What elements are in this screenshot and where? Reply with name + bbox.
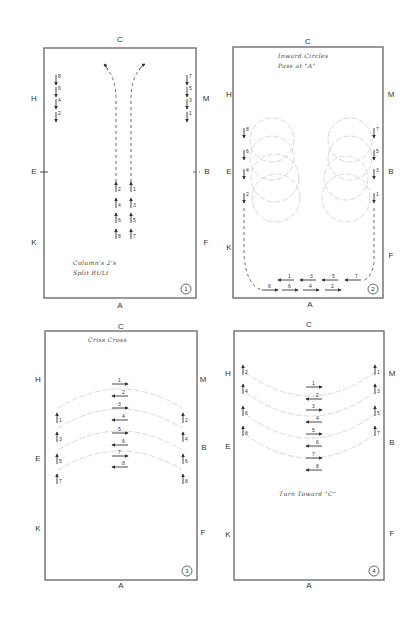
pattern-note: Inward Circles	[277, 52, 328, 59]
arena-letter-c: C	[117, 35, 123, 44]
rider-6: 6	[282, 283, 298, 290]
rider-number: 7	[376, 126, 379, 132]
rider-3: 3	[112, 401, 128, 408]
rider-number: 4	[245, 388, 248, 394]
rider-4: 4	[244, 167, 249, 179]
curve-path	[245, 392, 375, 416]
rider-7: 7	[112, 449, 128, 456]
arena-outline	[45, 331, 197, 580]
rider-8: 8	[243, 426, 248, 436]
rider-number: 8	[118, 233, 121, 239]
circle-path	[328, 118, 372, 162]
rider-1: 1	[375, 365, 380, 375]
rider-number: 2	[58, 110, 61, 116]
pattern-note: Column's 2's	[73, 259, 117, 266]
rider-number: 8	[268, 283, 271, 289]
rider-number: 4	[309, 283, 312, 289]
rider-4: 4	[303, 283, 319, 290]
rider-5: 5	[187, 85, 192, 97]
rider-number: 5	[189, 85, 192, 91]
rider-number: 8	[245, 430, 248, 436]
rider-8: 8	[116, 229, 121, 239]
rider-5: 5	[374, 148, 379, 160]
split-right-arrow-icon	[139, 64, 145, 70]
rider-number: 8	[185, 478, 188, 484]
rider-number: 6	[245, 410, 248, 416]
arena-outline	[234, 331, 384, 580]
track-right	[131, 70, 139, 182]
rider-5: 5	[375, 406, 380, 416]
rider-number: 6	[58, 85, 61, 91]
rider-1: 1	[306, 380, 322, 387]
arena-letter-e: E	[35, 454, 40, 463]
panel-4: CHMEBKFATurn Toward "C"24681357123456784	[225, 320, 396, 590]
rider-number: 3	[133, 202, 136, 208]
arena-letter-e: E	[31, 167, 36, 176]
rider-number: 2	[185, 417, 188, 423]
circle-path	[322, 174, 370, 222]
rider-2: 2	[183, 413, 188, 423]
arena-letter-m: M	[389, 369, 396, 378]
rider-3: 3	[57, 432, 62, 442]
arena-letter-h: H	[35, 375, 41, 384]
rider-3: 3	[131, 198, 136, 208]
rider-number: 3	[376, 167, 379, 173]
rider-number: 3	[189, 97, 192, 103]
arena-letter-k: K	[226, 243, 232, 252]
rider-number: 5	[59, 458, 62, 464]
rider-number: 6	[118, 217, 121, 223]
rider-number: 7	[312, 451, 315, 457]
arena-letter-b: B	[389, 438, 394, 447]
rider-number: 3	[59, 436, 62, 442]
rider-4: 4	[112, 413, 128, 420]
rider-6: 6	[116, 213, 121, 223]
rider-number: 1	[376, 191, 379, 197]
rider-8: 8	[112, 460, 128, 467]
rider-2: 2	[243, 365, 248, 375]
circle-path	[250, 118, 294, 162]
rider-2: 2	[244, 191, 249, 203]
rider-2: 2	[325, 283, 341, 290]
arena-letter-k: K	[31, 238, 37, 247]
circle-path	[324, 156, 368, 200]
rider-6: 6	[306, 439, 322, 446]
arena-letter-f: F	[204, 238, 209, 247]
rider-number: 5	[332, 273, 335, 279]
rider-number: 6	[246, 148, 249, 154]
rider-number: 5	[133, 217, 136, 223]
rider-number: 7	[189, 73, 192, 79]
rider-6: 6	[243, 406, 248, 416]
rider-number: 4	[58, 97, 61, 103]
rider-4: 4	[183, 432, 188, 442]
rider-6: 6	[112, 438, 128, 445]
arena-letter-m: M	[203, 94, 210, 103]
split-left-arrow-icon	[104, 64, 108, 70]
rider-number: 5	[312, 427, 315, 433]
arena-letter-k: K	[35, 524, 41, 533]
rider-8: 8	[56, 73, 61, 85]
arena-letter-c: C	[305, 37, 311, 46]
arena-letter-a: A	[118, 581, 124, 590]
arena-letter-a: A	[306, 581, 312, 590]
arena-letter-m: M	[200, 375, 207, 384]
rider-5: 5	[112, 426, 128, 433]
rider-5: 5	[322, 273, 338, 280]
rider-number: 1	[312, 380, 315, 386]
curve-path	[245, 372, 375, 396]
panel-2: CHMEBKFAInward CirclesPass at "A"8642753…	[226, 37, 395, 309]
rider-1: 1	[278, 273, 294, 280]
track-left	[108, 70, 116, 182]
panel-1: CHMEBKFAColumn's 2'sSplit Rt/Lt864275312…	[31, 35, 210, 310]
arena-letter-f: F	[390, 529, 395, 538]
rider-number: 3	[310, 273, 313, 279]
rider-6: 6	[244, 148, 249, 160]
rider-7: 7	[374, 126, 379, 138]
arena-letter-b: B	[204, 167, 209, 176]
circle-path	[251, 154, 299, 202]
rider-number: 1	[189, 110, 192, 116]
rider-number: 1	[118, 377, 121, 383]
rider-4: 4	[243, 384, 248, 394]
rider-number: 2	[331, 283, 334, 289]
rider-number: 7	[133, 233, 136, 239]
rider-5: 5	[306, 427, 322, 434]
